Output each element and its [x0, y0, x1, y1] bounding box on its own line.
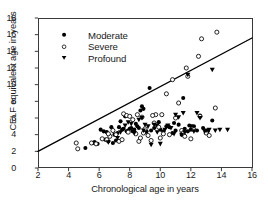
y-axis-tick-labels: 024681012141618: [0, 0, 268, 214]
x-tick-4: 4: [59, 171, 79, 180]
open-circle-icon: [60, 41, 72, 53]
x-tick-8: 8: [120, 171, 140, 180]
legend-label-moderate: Moderate: [88, 30, 128, 41]
x-tick-10: 10: [150, 171, 170, 180]
figure-caption-clipped: [0, 205, 268, 214]
x-tick-16: 16: [242, 171, 262, 180]
filled-circle-icon: [60, 29, 72, 41]
scatter-plot-figure: 024681012141618 246810121416 CELF equiva…: [0, 0, 268, 214]
y-tick-2: 2: [0, 147, 16, 156]
x-tick-14: 14: [211, 171, 231, 180]
legend-label-severe: Severe: [88, 41, 118, 52]
y-axis-title: CELF equivalent age in years: [8, 4, 18, 138]
x-tick-12: 12: [181, 171, 201, 180]
x-axis-title: Chronological age in years: [38, 184, 252, 194]
legend-label-profound: Profound: [88, 53, 126, 64]
filled-triangle-down-icon: [60, 52, 72, 64]
x-tick-2: 2: [28, 171, 48, 180]
y-tick-0: 0: [0, 164, 16, 173]
x-tick-6: 6: [89, 171, 109, 180]
